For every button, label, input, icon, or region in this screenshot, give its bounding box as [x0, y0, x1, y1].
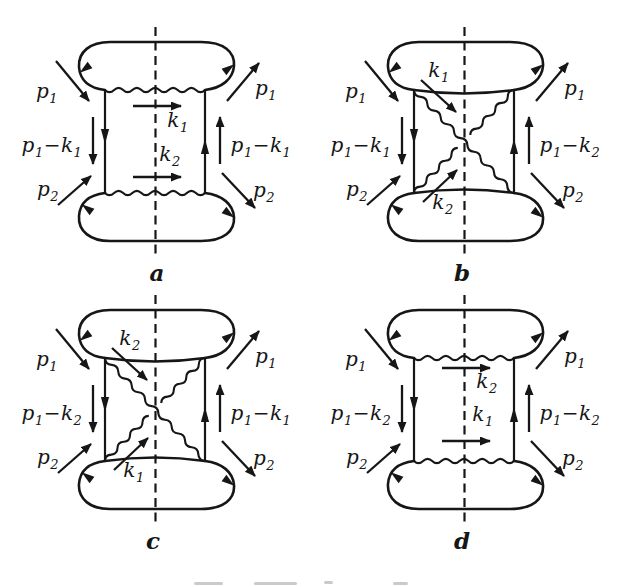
fermion-arrowhead-left: [101, 397, 109, 412]
label-p1-in: p1: [36, 81, 58, 101]
label-p2-out: p2: [253, 180, 275, 200]
flow-wedge-bottom-left: [391, 472, 404, 483]
feynman-diagram-a: p1 p1−k1 p2 p1 p1−k1 p2 k1 k2 a: [0, 0, 310, 293]
fermion-arrowhead-left: [101, 129, 109, 144]
label-p1-in: p1: [36, 349, 58, 369]
label-p2-in: p2: [37, 179, 59, 199]
momentum-arrow-k-upper: [421, 80, 456, 112]
fermion-arrowhead-right: [201, 139, 209, 154]
label-p2-in: p2: [346, 179, 368, 199]
panel-caption: d: [454, 527, 470, 554]
label-k-upper: k1: [428, 60, 449, 80]
fermion-arrowhead-right: [201, 407, 209, 422]
flow-wedge-bottom-left: [82, 472, 95, 483]
flow-wedge-top-left: [389, 330, 402, 341]
label-p2-out: p2: [562, 180, 584, 200]
label-p1-out: p1: [564, 346, 586, 366]
feynman-diagram-d: p1 p1−k2 p2 p1 p1−k2 p2 k2 k1 d: [309, 268, 619, 561]
fermion-arrowhead-left: [410, 129, 418, 144]
label-p2-in: p2: [37, 447, 59, 467]
label-k-upper: k1: [167, 110, 188, 130]
feynman-diagram-b: p1 p1−k1 p2 p1 p1−k2 p2 k1 k2 b: [309, 0, 619, 293]
panel-caption: c: [146, 527, 160, 554]
label-k-lower: k1: [123, 460, 144, 480]
flow-wedge-top-left: [80, 330, 93, 341]
feynman-figure: p1 p1−k1 p2 p1 p1−k1 p2 k1 k2 a: [0, 0, 619, 587]
fermion-arrowhead-right: [510, 139, 518, 154]
label-k-lower: k2: [159, 144, 180, 164]
label-p1-in: p1: [345, 81, 367, 101]
label-prop-right: p1−k1: [231, 135, 292, 155]
label-p1-out: p1: [255, 346, 277, 366]
label-k-upper: k2: [476, 371, 497, 391]
label-p2-out: p2: [253, 448, 275, 468]
label-p1-out: p1: [564, 78, 586, 98]
label-p1-out: p1: [255, 78, 277, 98]
label-p2-out: p2: [562, 448, 584, 468]
label-prop-right: p1−k1: [231, 403, 292, 423]
fermion-arrowhead-left: [410, 397, 418, 412]
flow-wedge-bottom-left: [82, 204, 95, 215]
photon-line-cross-2b: [414, 148, 458, 193]
label-p2-in: p2: [346, 447, 368, 467]
photon-line-cross-2a: [161, 358, 205, 403]
label-k-lower: k2: [432, 192, 453, 212]
flow-wedge-top-left: [80, 62, 93, 73]
label-prop-right: p1−k2: [540, 403, 601, 423]
label-prop-right: p1−k2: [540, 135, 601, 155]
label-prop-left: p1−k1: [22, 135, 83, 155]
label-p1-in: p1: [345, 349, 367, 369]
label-prop-left: p1−k1: [331, 135, 392, 155]
feynman-diagram-c: p1 p1−k2 p2 p1 p1−k1 p2 k2 k1 c: [0, 268, 310, 561]
momentum-arrow-k-upper: [112, 348, 147, 380]
fermion-arrowhead-right: [510, 407, 518, 422]
label-k-upper: k2: [119, 328, 140, 348]
flow-wedge-top-left: [389, 62, 402, 73]
label-prop-left: p1−k2: [331, 403, 392, 423]
photon-line-cross-2a: [470, 90, 514, 135]
flow-wedge-bottom-left: [391, 204, 404, 215]
photon-line-cross-2b: [105, 416, 149, 461]
label-k-lower: k1: [472, 404, 493, 424]
label-prop-left: p1−k2: [22, 403, 83, 423]
